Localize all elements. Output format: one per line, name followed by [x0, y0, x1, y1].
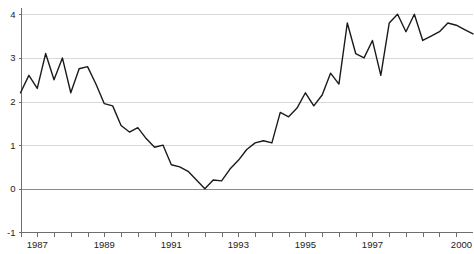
x-tick-label-2000: 2000	[451, 239, 472, 250]
chart-canvas: 43210-1 1987198919911993199519972000	[0, 0, 474, 254]
y-axis-tick-labels: 43210-1	[7, 9, 15, 238]
axis-tick-marks	[19, 15, 457, 237]
gridlines	[21, 15, 474, 190]
y-tick-label-3: 3	[10, 52, 15, 63]
x-tick-label-1997: 1997	[362, 239, 383, 250]
x-tick-label-1991: 1991	[161, 239, 182, 250]
y-tick-label--1: -1	[7, 227, 15, 238]
data-series	[21, 14, 474, 188]
axis-lines	[21, 8, 474, 232]
line-chart-figure: 43210-1 1987198919911993199519972000	[0, 0, 474, 254]
x-tick-label-1989: 1989	[94, 239, 115, 250]
y-tick-label-1: 1	[10, 140, 15, 151]
y-tick-label-4: 4	[10, 9, 15, 20]
y-tick-label-2: 2	[10, 96, 15, 107]
series-line-1	[21, 14, 474, 188]
x-tick-label-1993: 1993	[228, 239, 249, 250]
x-axis-tick-labels: 1987198919911993199519972000	[27, 239, 472, 250]
x-tick-label-1987: 1987	[27, 239, 48, 250]
x-tick-label-1995: 1995	[295, 239, 316, 250]
y-tick-label-0: 0	[10, 183, 15, 194]
